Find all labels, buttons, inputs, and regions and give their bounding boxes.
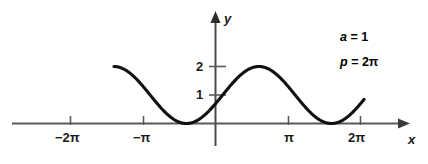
y-axis-label: y xyxy=(224,12,231,25)
y-tick-label-2: 2 xyxy=(196,60,203,73)
y-axis-arrowhead xyxy=(211,11,221,23)
x-axis-label: x xyxy=(408,133,415,146)
x-axis-arrowhead xyxy=(398,119,410,129)
trig-graph-figure: −2π −π π 2π 2 1 y x a = 1 p = 2π xyxy=(0,0,428,164)
amplitude-annotation: a = 1 xyxy=(340,30,378,44)
x-tick-label-neg-pi: −π xyxy=(133,131,151,144)
y-tick-label-1: 1 xyxy=(196,88,203,101)
amplitude-value: = 1 xyxy=(350,30,368,44)
x-tick-label-neg-2pi: −2π xyxy=(55,131,80,144)
amplitude-symbol: a xyxy=(340,30,347,44)
parameter-annotations: a = 1 p = 2π xyxy=(340,30,378,80)
period-value: = 2π xyxy=(351,55,378,69)
period-symbol: p xyxy=(340,55,348,69)
x-tick-label-2pi: 2π xyxy=(348,131,365,144)
period-annotation: p = 2π xyxy=(340,55,378,69)
sinusoid-curve xyxy=(114,67,364,124)
x-tick-label-pi: π xyxy=(284,131,294,144)
